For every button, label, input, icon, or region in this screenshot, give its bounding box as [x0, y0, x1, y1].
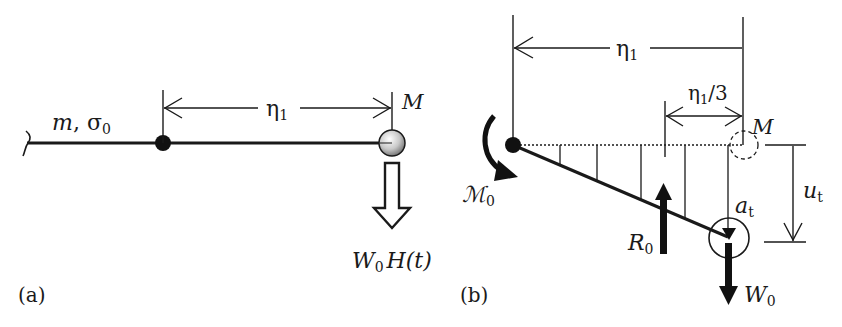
- third-label: η1/3: [688, 81, 728, 107]
- reaction-arrowhead-icon: [655, 183, 672, 200]
- panel-a: η1 m, σ0 M W0H(t) (a): [18, 90, 432, 307]
- weight-label: W0: [744, 282, 776, 309]
- span-label-a: η1: [266, 96, 288, 123]
- caption-b: (b): [460, 283, 488, 307]
- weight-arrowhead-icon: [719, 286, 738, 305]
- moment-arrowhead-icon: [494, 160, 518, 181]
- diagram-canvas: η1 m, σ0 M W0H(t) (a) η1 η1: [0, 0, 842, 327]
- span-label-b: η1: [616, 36, 638, 63]
- reaction-arrow-shaft: [660, 198, 667, 254]
- caption-a: (a): [18, 283, 46, 307]
- pivot-dot: [505, 137, 521, 153]
- load-label: W0H(t): [352, 248, 432, 275]
- deflected-string: [513, 145, 728, 237]
- moment-label: ℳ0: [462, 182, 495, 209]
- panel-b: η1 η1/3 M ℳ0 R0: [460, 15, 823, 309]
- acceleration-label: at: [735, 193, 754, 220]
- string-label: m, σ0: [52, 110, 111, 137]
- reaction-label: R0: [627, 230, 654, 257]
- mass-label-b: M: [751, 115, 774, 139]
- load-arrow-icon: [374, 163, 410, 228]
- weight-arrow-shaft: [725, 243, 732, 288]
- mass-label-a: M: [401, 90, 424, 114]
- deflection-label: ut: [803, 178, 823, 205]
